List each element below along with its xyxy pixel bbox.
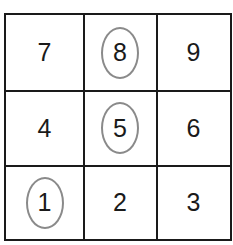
grid-cell: 3 [157, 166, 230, 239]
grid-cell: 6 [157, 91, 230, 165]
grid-cell: 5 [84, 91, 156, 165]
cell-number: 3 [187, 188, 201, 217]
grid-cell: 8 [84, 15, 156, 90]
cell-number: 9 [187, 38, 201, 67]
grid-cell: 1 [6, 166, 83, 239]
cell-number: 5 [113, 114, 127, 143]
grid-cell: 2 [84, 166, 156, 239]
grid-cell: 4 [6, 91, 83, 165]
cell-number: 1 [38, 188, 52, 217]
cell-number: 2 [113, 188, 127, 217]
grid-cell: 9 [157, 15, 230, 90]
number-grid: 789456123 [4, 13, 232, 241]
cell-number: 6 [187, 114, 201, 143]
grid-cell: 7 [6, 15, 83, 90]
cell-number: 7 [38, 38, 52, 67]
cell-number: 4 [38, 114, 52, 143]
cell-number: 8 [113, 38, 127, 67]
